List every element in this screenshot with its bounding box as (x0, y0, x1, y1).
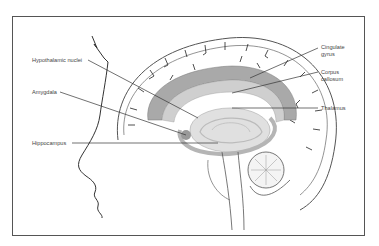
face-profile (79, 36, 108, 218)
label-cingulate-gyrus: Cingulate gyrus (321, 44, 357, 57)
label-hypothalamic-nuclei: Hypothalamic nuclei (32, 57, 82, 64)
label-corpus-callosum: Corpus callosum (321, 69, 357, 82)
label-thalamus: Thalamus (321, 105, 357, 112)
brainstem (222, 152, 244, 230)
label-hippocampus: Hippocampus (32, 140, 66, 147)
brain-diagram (0, 0, 379, 246)
cerebellum-folia (251, 155, 281, 185)
label-amygdala: Amygdala (32, 89, 57, 96)
